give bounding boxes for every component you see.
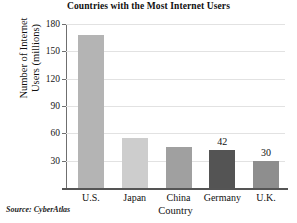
- y-axis-tick-mark: [62, 133, 66, 134]
- bar-china: [166, 147, 192, 188]
- y-axis-tick-label: 120: [46, 74, 60, 84]
- x-axis-tick-label: Japan: [123, 192, 146, 203]
- bar-value-label: 30: [261, 147, 271, 158]
- bar-japan: [122, 138, 148, 188]
- bar-u-k: [253, 161, 279, 188]
- x-axis-title: Country: [66, 205, 285, 216]
- bar-germany: [209, 150, 235, 188]
- y-axis-tick-label: 180: [46, 19, 60, 29]
- y-axis-tick-mark: [62, 51, 66, 52]
- y-axis-tick-label: 150: [46, 46, 60, 56]
- y-axis-tick-mark: [62, 161, 66, 162]
- y-axis-tick-mark: [62, 79, 66, 80]
- x-axis-tick-label: U.K.: [256, 192, 275, 203]
- y-axis-tick-label: 30: [51, 156, 61, 166]
- y-axis-title-line-2: Users (millions): [30, 24, 43, 92]
- x-axis-tick-label: U.S.: [82, 192, 100, 203]
- bar-value-label: 42: [217, 136, 227, 147]
- x-axis-tick-label: Germany: [204, 192, 241, 203]
- gridline: [66, 24, 285, 25]
- bar-u-s: [78, 35, 104, 188]
- chart-figure: Countries with the Most Internet Users N…: [0, 0, 297, 223]
- y-axis-tick-label: 90: [51, 101, 61, 111]
- plot-area: 306090120150180 4230 U.S.JapanChinaGerma…: [66, 24, 285, 188]
- y-axis-title: Number of Internet Users (millions): [16, 0, 44, 124]
- x-axis-line: [62, 188, 288, 190]
- x-axis-tick-label: China: [167, 192, 191, 203]
- y-axis-tick-mark: [62, 106, 66, 107]
- chart-title: Countries with the Most Internet Users: [0, 1, 297, 11]
- y-axis-title-line-1: Number of Internet: [18, 17, 31, 98]
- source-note: Source: CyberAtlas: [6, 205, 70, 214]
- y-axis-tick-label: 60: [51, 128, 61, 138]
- y-axis-tick-mark: [62, 24, 66, 25]
